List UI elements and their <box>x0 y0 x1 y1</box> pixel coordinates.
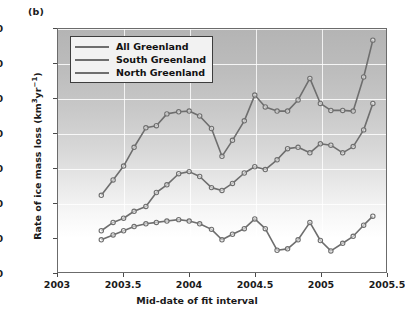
panel-label: (b) <box>28 6 44 17</box>
data-point-marker <box>340 108 344 112</box>
data-point-marker <box>121 216 125 220</box>
y-axis-tick-100: 100 <box>0 198 3 209</box>
data-point-marker <box>209 126 213 130</box>
data-point-marker <box>144 204 148 208</box>
legend: All GreenlandSouth GreenlandNorth Greenl… <box>70 36 213 83</box>
data-point-marker <box>351 234 355 238</box>
data-point-marker <box>132 145 136 149</box>
data-point-marker <box>275 158 279 162</box>
x-axis-tickmark <box>387 273 388 277</box>
data-point-marker <box>220 238 224 242</box>
data-point-marker <box>340 241 344 245</box>
y-axis-label-mid: yr <box>32 87 43 98</box>
y-axis-label: Rate of ice mass loss (km3yr−1) <box>31 31 43 281</box>
data-point-marker <box>253 93 257 97</box>
data-point-marker <box>111 233 115 237</box>
x-axis-tickmark <box>123 273 124 277</box>
data-point-marker <box>230 138 234 142</box>
data-point-marker <box>154 124 158 128</box>
x-axis-tick-2005.5: 2005.5 <box>369 279 405 290</box>
data-point-marker <box>187 109 191 113</box>
data-point-marker <box>308 220 312 224</box>
data-point-marker <box>318 142 322 146</box>
data-point-marker <box>329 143 333 147</box>
data-point-marker <box>296 238 300 242</box>
data-point-marker <box>230 181 234 185</box>
legend-label: South Greenland <box>116 54 206 65</box>
data-point-marker <box>230 232 234 236</box>
y-axis-tick-150: 150 <box>0 163 3 174</box>
x-axis-tickmark <box>255 273 256 277</box>
data-point-marker <box>154 220 158 224</box>
data-point-marker <box>371 214 375 218</box>
data-point-marker <box>318 101 322 105</box>
data-point-marker <box>220 154 224 158</box>
data-point-marker <box>285 247 289 251</box>
x-axis-tick-2004: 2004 <box>176 279 202 290</box>
data-point-marker <box>275 248 279 252</box>
data-point-marker <box>111 220 115 224</box>
data-point-marker <box>121 164 125 168</box>
data-point-marker <box>121 229 125 233</box>
y-axis-tick-0: 0 <box>0 268 3 279</box>
data-point-marker <box>177 172 181 176</box>
legend-label: All Greenland <box>116 41 189 52</box>
data-point-marker <box>329 249 333 253</box>
y-axis-tick-50: 50 <box>0 233 3 244</box>
data-point-marker <box>285 146 289 150</box>
data-point-marker <box>144 126 148 130</box>
data-point-marker <box>263 226 267 230</box>
legend-label: North Greenland <box>116 67 205 78</box>
data-point-marker <box>242 226 246 230</box>
legend-item-2: North Greenland <box>75 66 206 79</box>
data-point-marker <box>361 223 365 227</box>
data-point-marker <box>165 219 169 223</box>
legend-swatch-line-icon <box>75 72 109 74</box>
data-point-marker <box>187 219 191 223</box>
x-axis-tickmark <box>189 273 190 277</box>
data-point-marker <box>371 101 375 105</box>
data-point-marker <box>132 224 136 228</box>
data-point-marker <box>209 185 213 189</box>
y-axis-tick-250: 250 <box>0 93 3 104</box>
data-point-marker <box>197 222 201 226</box>
data-point-marker <box>99 193 103 197</box>
legend-item-0: All Greenland <box>75 40 206 53</box>
data-point-marker <box>144 222 148 226</box>
data-point-marker <box>209 227 213 231</box>
data-point-marker <box>263 167 267 171</box>
data-point-marker <box>220 188 224 192</box>
x-axis-tickmark <box>321 273 322 277</box>
data-point-marker <box>197 114 201 118</box>
y-axis-label-sup-inverse: −1 <box>31 77 39 88</box>
data-point-marker <box>371 38 375 42</box>
data-point-marker <box>165 112 169 116</box>
data-point-marker <box>329 108 333 112</box>
data-point-marker <box>361 128 365 132</box>
x-axis-label: Mid-date of fit interval <box>0 295 394 306</box>
legend-swatch-line-icon <box>75 46 109 48</box>
data-point-marker <box>197 174 201 178</box>
data-point-marker <box>177 217 181 221</box>
data-point-marker <box>351 109 355 113</box>
series-line <box>101 216 373 251</box>
data-point-marker <box>361 75 365 79</box>
data-point-marker <box>285 109 289 113</box>
data-point-marker <box>242 171 246 175</box>
x-axis-tick-2005: 2005 <box>308 279 334 290</box>
x-axis-tick-2004.5: 2004.5 <box>237 279 274 290</box>
data-point-marker <box>253 217 257 221</box>
data-point-marker <box>177 110 181 114</box>
legend-item-1: South Greenland <box>75 53 206 66</box>
data-point-marker <box>99 229 103 233</box>
x-axis-tick-2003.5: 2003.5 <box>105 279 142 290</box>
data-point-marker <box>154 190 158 194</box>
legend-swatch-line-icon <box>75 59 109 61</box>
data-point-marker <box>187 169 191 173</box>
y-axis-tick-300: 300 <box>0 58 3 69</box>
y-axis-label-text: Rate of ice mass loss (km <box>32 103 43 240</box>
series-south-greenland <box>99 101 375 233</box>
data-point-marker <box>263 105 267 109</box>
data-point-marker <box>308 76 312 80</box>
x-axis-tick-2003: 2003 <box>44 279 70 290</box>
